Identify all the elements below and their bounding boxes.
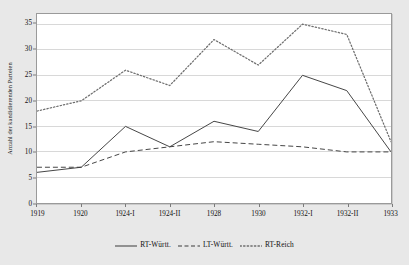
legend-key-dotted-icon	[240, 242, 262, 248]
series-line-2	[37, 24, 391, 141]
y-axis-tick-labels: 05101520253035	[4, 13, 32, 204]
y-axis-tick-label: 15	[6, 123, 32, 131]
x-axis-tick-label: 1919	[30, 210, 44, 218]
series-line-0	[37, 75, 391, 172]
x-axis-tick-mark	[259, 204, 260, 207]
legend-item-1[interactable]: LT-Württ.	[178, 240, 233, 249]
x-axis-tick-marks	[36, 204, 392, 208]
x-axis-tick-label: 1933	[383, 210, 397, 218]
x-axis-tick-mark	[214, 204, 215, 207]
plot-area	[36, 13, 392, 204]
x-axis-tick-mark	[36, 204, 37, 207]
y-axis-tick-label: 0	[6, 200, 32, 208]
chart-legend: RT-Württ.LT-Württ.RT-Reich	[0, 240, 409, 249]
x-axis-tick-label: 1928	[207, 210, 221, 218]
y-axis-tick-label: 20	[6, 97, 32, 105]
legend-label: RT-Württ.	[140, 240, 171, 249]
x-axis-tick-mark	[348, 204, 349, 207]
legend-item-2[interactable]: RT-Reich	[240, 240, 294, 249]
x-axis-tick-label: 1932-II	[337, 210, 359, 218]
x-axis-tick-labels: 191919201924-I1924-II192819301932-I1932-…	[36, 210, 392, 222]
x-axis-tick-label: 1924-II	[159, 210, 181, 218]
legend-key-dashed-icon	[178, 242, 200, 248]
legend-item-0[interactable]: RT-Württ.	[115, 240, 171, 249]
y-axis-tick-label: 30	[6, 45, 32, 53]
legend-key-solid-icon	[115, 242, 137, 248]
legend-label: LT-Württ.	[203, 240, 233, 249]
legend-label: RT-Reich	[265, 240, 294, 249]
x-axis-tick-mark	[170, 204, 171, 207]
x-axis-tick-label: 1932-I	[293, 210, 312, 218]
x-axis-tick-label: 1920	[73, 210, 87, 218]
x-axis-tick-mark	[125, 204, 126, 207]
x-axis-tick-label: 1930	[251, 210, 265, 218]
x-axis-tick-mark	[81, 204, 82, 207]
series-line-1	[37, 142, 391, 168]
x-axis-tick-mark	[303, 204, 304, 207]
chart-figure: Anzahl der kandidierenden Parteien 05101…	[0, 0, 409, 265]
x-axis-tick-label: 1924-I	[115, 210, 134, 218]
y-axis-tick-label: 25	[6, 71, 32, 79]
y-axis-tick-label: 10	[6, 148, 32, 156]
y-axis-tick-label: 5	[6, 174, 32, 182]
x-axis-tick-mark	[392, 204, 393, 207]
y-axis-tick-label: 35	[6, 19, 32, 27]
data-series-layer	[37, 14, 391, 203]
